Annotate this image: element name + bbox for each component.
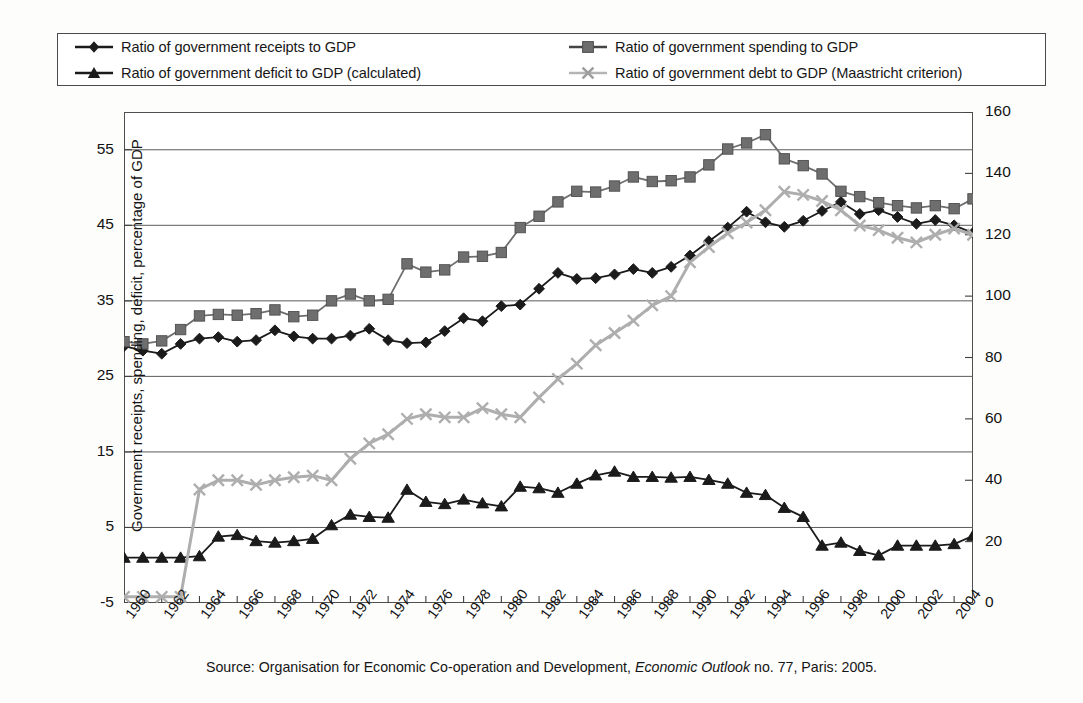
legend-row-top: Ratio of government receipts to GDP Rati… [58,34,1045,60]
figure-container: Ratio of government receipts to GDP Rati… [0,0,1083,703]
y-axis-right-tick: 60 [985,409,1031,427]
y-axis-right-tick: 20 [985,532,1031,550]
diamond-marker-icon [72,37,116,57]
plot-area-wrapper: Government receipts, spending, deficit, … [124,112,973,603]
y-axis-right-tick: 0 [985,593,1031,611]
triangle-marker-icon [72,63,116,83]
y-axis-left-title: Government receipts, spending, deficit, … [127,101,146,571]
cross-marker-icon [566,63,610,83]
y-axis-left-tick: 15 [68,442,114,460]
source-suffix: no. 77, Paris: 2005. [750,659,877,675]
y-axis-right-tick: 80 [985,348,1031,366]
y-axis-right-tick: 100 [985,286,1031,304]
legend-label-spending: Ratio of government spending to GDP [615,39,858,55]
legend-item-receipts[interactable]: Ratio of government receipts to GDP [72,34,356,60]
square-marker-icon [566,37,610,57]
legend-label-deficit: Ratio of government deficit to GDP (calc… [121,65,421,81]
y-axis-left-tick: -5 [68,593,114,611]
chart-legend: Ratio of government receipts to GDP Rati… [57,33,1046,86]
y-axis-left-tick: 35 [68,291,114,309]
legend-item-deficit[interactable]: Ratio of government deficit to GDP (calc… [72,60,421,86]
y-axis-right-tick: 140 [985,163,1031,181]
legend-label-receipts: Ratio of government receipts to GDP [121,39,356,55]
legend-row-bottom: Ratio of government deficit to GDP (calc… [58,60,1045,86]
source-note: Source: Organisation for Economic Co-ope… [0,659,1083,675]
legend-label-debt: Ratio of government debt to GDP (Maastri… [615,65,962,81]
y-axis-right-tick: 160 [985,102,1031,120]
y-axis-left-tick: 5 [68,517,114,535]
y-axis-left-tick: 45 [68,215,114,233]
legend-item-spending[interactable]: Ratio of government spending to GDP [566,34,858,60]
y-axis-right-tick: 120 [985,225,1031,243]
source-prefix: Source: Organisation for Economic Co-ope… [206,659,635,675]
y-axis-left-tick: 55 [68,140,114,158]
chart-canvas [124,112,973,603]
source-italic-title: Economic Outlook [635,659,750,675]
y-axis-right-tick: 40 [985,470,1031,488]
y-axis-left-tick: 25 [68,366,114,384]
legend-item-debt[interactable]: Ratio of government debt to GDP (Maastri… [566,60,962,86]
